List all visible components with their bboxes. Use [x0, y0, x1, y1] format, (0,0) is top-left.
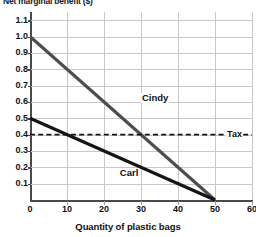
series-line-carl [30, 118, 215, 200]
chart-container: Net marginal benefit ($) 0.10.20.30.40.5… [0, 0, 256, 237]
chart-data-layer [0, 0, 256, 237]
series-label-tax: Tax [226, 129, 243, 139]
series-label-carl: Carl [119, 168, 139, 178]
x-axis-title: Quantity of plastic bags [0, 221, 256, 232]
series-label-cindy: Cindy [141, 93, 169, 103]
